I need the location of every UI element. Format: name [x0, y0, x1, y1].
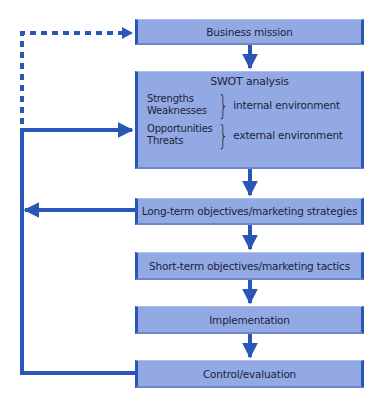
- swot-item-threats: Threats: [147, 135, 217, 147]
- swot-item-opportunities: Opportunities: [147, 123, 217, 135]
- swot-group-internal: Strengths Weaknesses } internal environm…: [147, 92, 361, 118]
- node-implementation: Implementation: [135, 306, 364, 334]
- node-long-term: Long-term objectives/marketing strategie…: [135, 198, 364, 225]
- node-label: Implementation: [209, 314, 290, 326]
- swot-group-label: external environment: [233, 129, 342, 141]
- dashed-arrowhead: [122, 27, 133, 39]
- node-short-term: Short-term objectives/marketing tactics: [135, 252, 364, 280]
- swot-item-strengths: Strengths: [147, 93, 217, 105]
- node-label: Long-term objectives/marketing strategie…: [142, 205, 358, 217]
- feedback-line-control: [22, 128, 135, 373]
- dashed-feedback-to-mission: [22, 33, 124, 124]
- node-swot-analysis: SWOT analysis Strengths Weaknesses } int…: [135, 71, 364, 169]
- swot-item-weaknesses: Weaknesses: [147, 105, 217, 117]
- node-control: Control/evaluation: [135, 360, 364, 388]
- node-label: Short-term objectives/marketing tactics: [149, 260, 350, 272]
- node-label: Business mission: [206, 26, 293, 38]
- swot-group-external: Opportunities Threats } external environ…: [147, 122, 361, 148]
- swot-group-label: internal environment: [233, 99, 340, 111]
- node-label: SWOT analysis: [138, 75, 361, 88]
- node-label: Control/evaluation: [203, 368, 296, 380]
- brace-icon: }: [218, 92, 228, 118]
- node-business-mission: Business mission: [135, 19, 364, 45]
- brace-icon: }: [218, 122, 228, 148]
